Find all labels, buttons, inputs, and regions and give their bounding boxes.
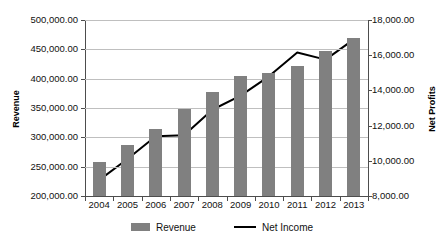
y-axis-right-tick-mark xyxy=(368,20,372,21)
y-axis-right-tick-mark xyxy=(368,90,372,91)
y-axis-left-tick-mark xyxy=(81,79,85,80)
legend-item-revenue: Revenue xyxy=(131,222,196,233)
bar-swatch-icon xyxy=(131,223,150,231)
y-axis-left-tick-label: 200,000.00 xyxy=(30,191,78,201)
y-axis-right-tick-mark xyxy=(368,161,372,162)
y-axis-right-line xyxy=(368,20,369,197)
line-swatch-icon xyxy=(234,226,256,228)
bar-2011 xyxy=(291,66,304,196)
y-axis-left-tick-label: 400,000.00 xyxy=(30,74,78,84)
y-axis-left-ticks: 200,000.00250,000.00300,000.00350,000.00… xyxy=(0,0,78,240)
bar-2012 xyxy=(319,51,332,196)
x-axis-label-2011: 2011 xyxy=(283,199,311,210)
line-path-net-income xyxy=(99,39,354,180)
y-axis-left-tick-label: 450,000.00 xyxy=(30,44,78,54)
y-axis-left-tick-label: 350,000.00 xyxy=(30,103,78,113)
x-axis-tick-mark xyxy=(368,197,369,201)
y-axis-left-tick-mark xyxy=(81,20,85,21)
bar-2004 xyxy=(93,162,106,196)
x-axis-label-2004: 2004 xyxy=(85,199,113,210)
y-axis-left-tick-label: 250,000.00 xyxy=(30,162,78,172)
legend-label-net-income: Net Income xyxy=(262,222,313,233)
x-axis-label-2006: 2006 xyxy=(142,199,170,210)
bar-2009 xyxy=(234,76,247,196)
y-axis-right-tick-label: 10,000.00 xyxy=(372,156,414,166)
bar-2006 xyxy=(149,129,162,196)
gridline xyxy=(85,20,368,21)
bar-2010 xyxy=(262,73,275,196)
y-axis-left-tick-mark xyxy=(81,49,85,50)
y-axis-right-ticks: 8,000.0010,000.0012,000.0014,000.0016,00… xyxy=(372,0,444,240)
y-axis-left-tick-mark xyxy=(81,167,85,168)
y-axis-right-tick-label: 8,000.00 xyxy=(372,191,409,201)
y-axis-left-tick-mark xyxy=(81,137,85,138)
bar-2008 xyxy=(206,92,219,196)
bar-2013 xyxy=(347,38,360,196)
x-axis-label-2008: 2008 xyxy=(198,199,226,210)
x-axis-label-2010: 2010 xyxy=(255,199,283,210)
legend-item-net-income: Net Income xyxy=(234,222,313,233)
x-axis-label-2012: 2012 xyxy=(311,199,339,210)
bar-2005 xyxy=(121,145,134,196)
y-axis-right-tick-label: 14,000.00 xyxy=(372,85,414,95)
y-axis-left-tick-label: 500,000.00 xyxy=(30,15,78,25)
y-axis-right-tick-mark xyxy=(368,55,372,56)
y-axis-left-tick-mark xyxy=(81,108,85,109)
y-axis-right-tick-label: 16,000.00 xyxy=(372,50,414,60)
chart-container: Revenue Net Profits 200,000.00250,000.00… xyxy=(0,0,444,240)
x-axis-label-2007: 2007 xyxy=(170,199,198,210)
legend-label-revenue: Revenue xyxy=(156,222,196,233)
y-axis-right-tick-label: 12,000.00 xyxy=(372,121,414,131)
x-axis-label-2013: 2013 xyxy=(340,199,368,210)
y-axis-right-tick-mark xyxy=(368,126,372,127)
x-axis-label-2005: 2005 xyxy=(113,199,141,210)
x-axis-tick-labels: 2004200520062007200820092010201120122013 xyxy=(85,199,368,213)
bar-2007 xyxy=(178,109,191,196)
y-axis-left-tick-label: 300,000.00 xyxy=(30,132,78,142)
y-axis-right-tick-label: 18,000.00 xyxy=(372,15,414,25)
chart-legend: Revenue Net Income xyxy=(0,219,444,235)
plot-area xyxy=(85,20,368,196)
x-axis-label-2009: 2009 xyxy=(227,199,255,210)
